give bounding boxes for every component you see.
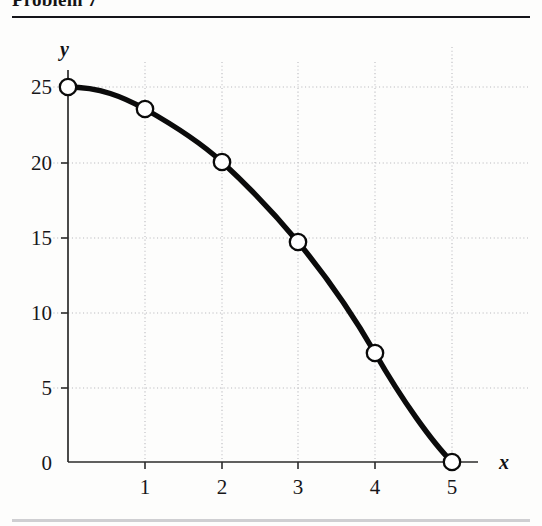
data-point-markers — [60, 79, 460, 470]
y-tick-label-20: 20 — [31, 151, 52, 175]
title-divider — [12, 16, 530, 18]
data-point-1 — [137, 101, 153, 117]
y-axis-label: y — [58, 38, 69, 61]
y-tick-label-10: 10 — [31, 301, 52, 325]
x-tick-label-3: 3 — [293, 475, 304, 499]
x-tick-label-2: 2 — [217, 475, 228, 499]
data-point-2 — [214, 154, 230, 170]
chart-svg: 25 20 15 10 5 0 1 2 3 4 5 y x — [0, 22, 542, 514]
y-axis-ticks — [61, 87, 68, 388]
x-tick-label-4: 4 — [370, 475, 381, 499]
data-point-0 — [60, 79, 76, 95]
y-tick-label-25: 25 — [31, 75, 52, 99]
x-tick-label-1: 1 — [140, 475, 151, 499]
figure-title: Problem 7 — [12, 0, 97, 11]
data-point-4 — [367, 345, 383, 361]
chart-plot-area: 25 20 15 10 5 0 1 2 3 4 5 y x — [0, 22, 542, 514]
data-point-5 — [444, 454, 460, 470]
data-curve — [68, 87, 452, 462]
x-tick-label-5: 5 — [447, 475, 458, 499]
y-tick-label-0: 0 — [42, 451, 53, 475]
x-axis-ticks — [145, 462, 452, 469]
data-point-3 — [290, 234, 306, 250]
y-tick-label-15: 15 — [31, 226, 52, 250]
bottom-divider — [12, 519, 530, 522]
horizontal-gridlines — [46, 87, 528, 388]
x-axis-label: x — [498, 451, 509, 473]
y-tick-label-5: 5 — [42, 376, 53, 400]
